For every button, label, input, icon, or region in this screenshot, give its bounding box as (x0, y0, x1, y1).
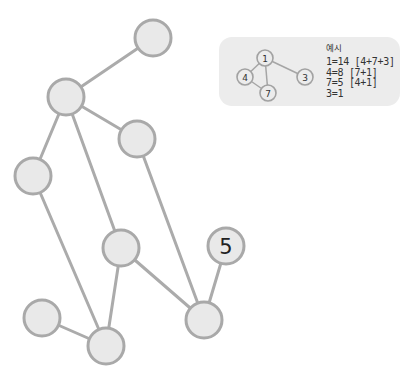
example-mini-nodes: 1437 (237, 50, 313, 101)
example-node-1: 1 (257, 50, 273, 66)
example-node-label: 3 (302, 73, 308, 83)
edge-B-E (66, 97, 121, 248)
node-B (48, 79, 84, 115)
example-title: 예시 (326, 43, 395, 54)
node-N5: 5 (208, 228, 244, 264)
node-circle (48, 79, 84, 115)
node-circle (15, 158, 51, 194)
node-E (103, 230, 139, 266)
node-circle (103, 230, 139, 266)
node-D (15, 158, 51, 194)
example-box: 1437 예시 1=14 [4+7+3] 4=8 [7+1] 7=5 [4+1]… (219, 37, 400, 106)
node-circle (119, 121, 155, 157)
node-F (186, 302, 222, 338)
node-C (119, 121, 155, 157)
node-A (135, 20, 171, 56)
example-node-label: 4 (242, 73, 248, 83)
graph-nodes: 5 (15, 20, 244, 364)
example-line-3: 3=1 (326, 89, 395, 100)
example-mini-graph: 1437 (219, 37, 325, 106)
example-node-7: 7 (260, 85, 276, 101)
example-node-3: 3 (297, 69, 313, 85)
node-circle (186, 302, 222, 338)
node-circle (24, 300, 60, 336)
example-line-7: 7=5 [4+1] (326, 78, 395, 89)
node-G (24, 300, 60, 336)
node-label: 5 (219, 235, 232, 259)
example-node-label: 1 (262, 54, 268, 64)
example-node-label: 7 (265, 89, 271, 99)
node-circle (88, 328, 124, 364)
example-text: 예시 1=14 [4+7+3] 4=8 [7+1] 7=5 [4+1] 3=1 (326, 43, 395, 99)
example-line-1: 1=14 [4+7+3] (326, 57, 395, 68)
node-circle (135, 20, 171, 56)
example-node-4: 4 (237, 69, 253, 85)
node-H (88, 328, 124, 364)
